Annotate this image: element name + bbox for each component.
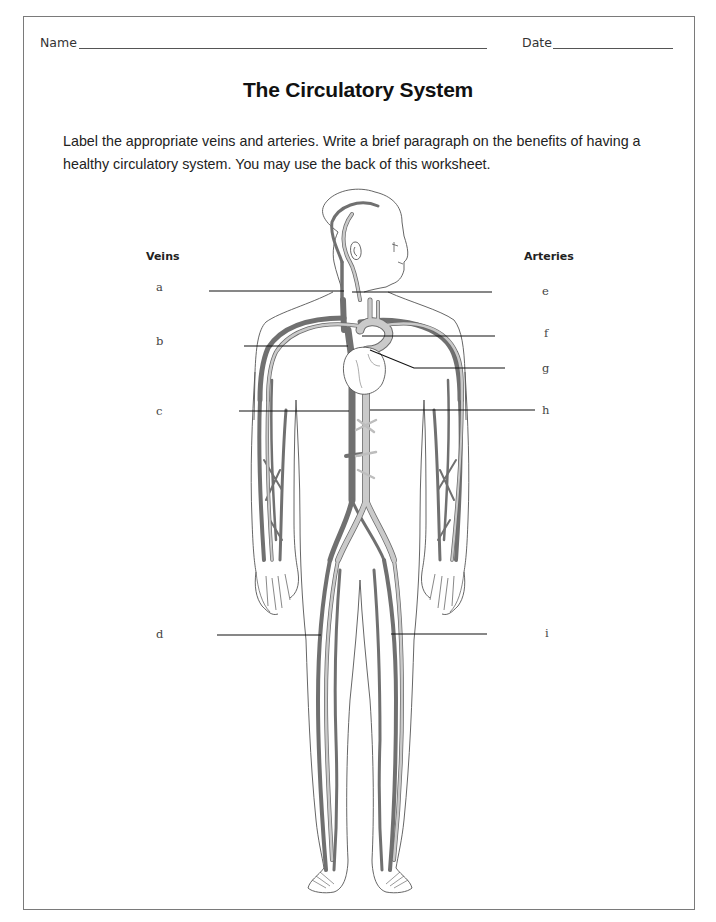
leader-g [370, 350, 505, 368]
veins [259, 203, 461, 870]
circulatory-system-diagram [0, 0, 716, 922]
arteries-outline [267, 214, 462, 860]
arteries [267, 214, 462, 860]
